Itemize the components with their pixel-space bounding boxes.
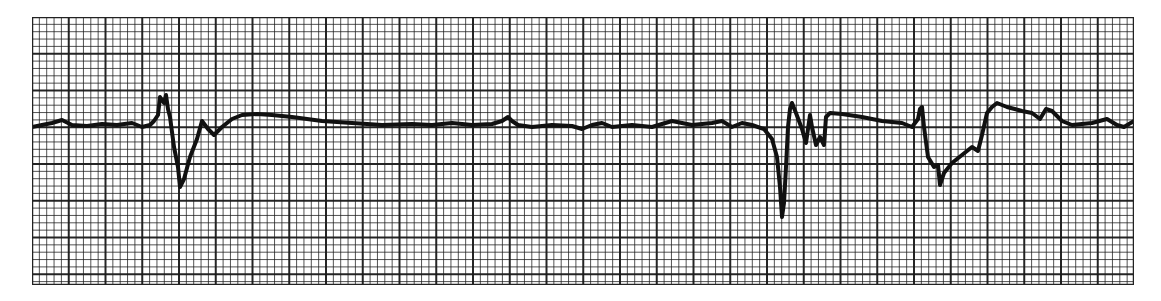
ecg-grid-and-trace — [32, 17, 1134, 285]
ecg-strip — [32, 17, 1134, 285]
